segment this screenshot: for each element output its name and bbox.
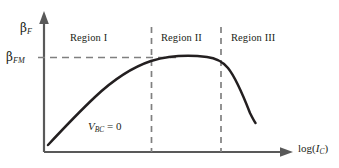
y-axis-label: βF [20, 22, 32, 36]
region-label-1: Region I [70, 33, 107, 44]
beta-vs-logic-figure: βF βFM log(IC) Region I Region II Region… [0, 0, 339, 168]
beta-fm-symbol: β [6, 50, 13, 64]
y-axis-label-subscript: F [27, 27, 32, 36]
figure-canvas [0, 0, 339, 168]
y-axis [39, 11, 49, 152]
bias-condition-subscript: BC [95, 125, 105, 134]
x-axis-arrowhead [280, 147, 293, 157]
region-label-3: Region III [231, 33, 275, 44]
y-axis-label-symbol: β [20, 21, 27, 35]
x-axis-label: log(IC) [298, 143, 328, 155]
x-axis-label-prefix: log( [298, 142, 316, 154]
bias-condition-variable: V [88, 120, 95, 132]
bias-condition-annotation: VBC = 0 [88, 121, 122, 133]
y-axis-arrowhead [39, 11, 49, 24]
bias-condition-value: = 0 [104, 120, 121, 132]
y-axis-tick-label-beta-fm: βFM [6, 51, 25, 65]
region-label-2: Region II [161, 33, 202, 44]
x-axis [44, 147, 293, 157]
beta-fm-subscript: FM [13, 56, 25, 65]
x-axis-label-suffix: ) [324, 142, 328, 154]
